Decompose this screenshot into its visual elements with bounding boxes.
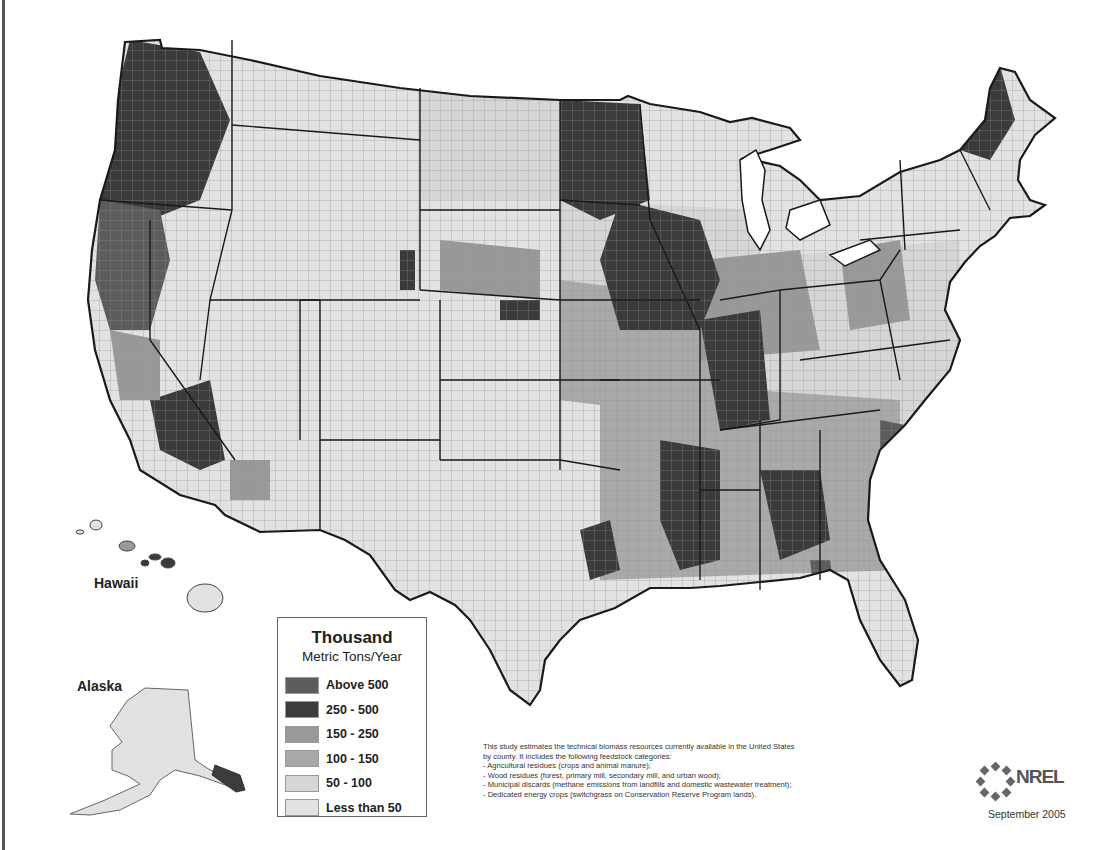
notes-line: - Dedicated energy crops (switchgrass on… (483, 790, 943, 800)
legend-item: 50 - 100 (278, 771, 426, 796)
study-notes: This study estimates the technical bioma… (483, 742, 943, 800)
legend-swatch (285, 750, 319, 767)
legend-label: 250 - 500 (326, 703, 379, 717)
alaska-shape (70, 688, 243, 815)
legend-label: 150 - 250 (326, 727, 379, 741)
legend-item: 100 - 150 (278, 747, 426, 772)
hawaii-inset (76, 520, 223, 612)
notes-line: - Agricultural residues (crops and anima… (483, 761, 943, 771)
legend-item: Above 500 (278, 673, 426, 698)
legend-item: Less than 50 (278, 796, 426, 821)
notes-line: - Municipal discards (methane emissions … (483, 780, 943, 790)
legend-swatch (285, 799, 319, 816)
legend-items: Above 500 250 - 500 150 - 250 100 - 150 … (278, 673, 426, 820)
legend-swatch (285, 677, 319, 694)
legend-label: 100 - 150 (326, 752, 379, 766)
hawaii-island (90, 520, 102, 530)
hawaii-island (119, 541, 135, 551)
legend-title: Thousand (278, 628, 426, 647)
hawaii-island (187, 584, 223, 612)
legend-subtitle: Metric Tons/Year (278, 649, 426, 664)
legend-swatch (285, 701, 319, 718)
hawaii-island (161, 558, 175, 568)
nrel-logo-text: NREL (1016, 766, 1064, 788)
legend-item: 150 - 250 (278, 722, 426, 747)
hawaii-island (76, 530, 84, 534)
hawaii-label: Hawaii (94, 575, 138, 591)
notes-line: - Wood residues (forest, primary mill, s… (483, 771, 943, 781)
legend-label: Above 500 (326, 678, 389, 692)
legend-label: 50 - 100 (326, 776, 372, 790)
hawaii-island (149, 554, 161, 560)
us-biomass-map (0, 0, 1109, 850)
nrel-logo-icon (975, 762, 1017, 804)
legend: Thousand Metric Tons/Year Above 500 250 … (277, 617, 427, 817)
notes-line: by county. It includes the following fee… (483, 752, 943, 762)
legend-label: Less than 50 (326, 801, 402, 815)
alaska-label: Alaska (77, 678, 122, 694)
legend-swatch (285, 726, 319, 743)
map-date: September 2005 (988, 808, 1066, 820)
alaska-panhandle (212, 765, 245, 792)
notes-line: This study estimates the technical bioma… (483, 742, 943, 752)
legend-swatch (285, 775, 319, 792)
alaska-inset (70, 688, 245, 815)
hawaii-island (141, 560, 149, 566)
legend-item: 250 - 500 (278, 698, 426, 723)
